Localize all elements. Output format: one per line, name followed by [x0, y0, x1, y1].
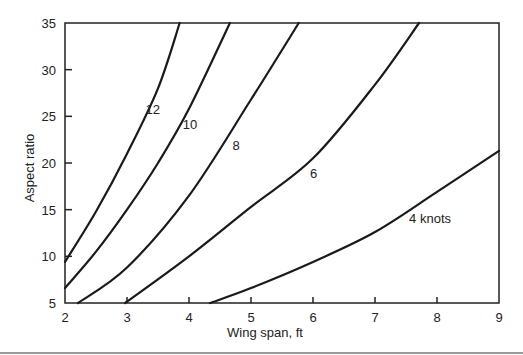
y-axis: 5101520253035	[42, 16, 72, 311]
x-tick-label: 8	[433, 310, 440, 325]
x-axis-title: Wing span, ft	[227, 325, 303, 340]
y-tick-label: 20	[42, 156, 56, 171]
x-tick-label: 2	[61, 310, 68, 325]
x-tick-label: 4	[185, 310, 192, 325]
curve-label: 4 knots	[409, 211, 451, 226]
x-tick-label: 5	[247, 310, 254, 325]
x-tick-label: 3	[123, 310, 130, 325]
y-tick-label: 25	[42, 109, 56, 124]
curve-12	[65, 23, 180, 262]
curve-10	[65, 23, 230, 288]
x-tick-label: 6	[309, 310, 316, 325]
curve-label: 8	[232, 138, 239, 153]
y-tick-label: 30	[42, 63, 56, 78]
curve-8	[78, 23, 299, 303]
chart: 23456789 5101520253035 1210864 knots Win…	[0, 0, 523, 355]
y-tick-label: 35	[42, 16, 56, 31]
y-tick-label: 5	[49, 296, 56, 311]
y-axis-title: Aspect ratio	[22, 134, 37, 203]
x-tick-label: 7	[371, 310, 378, 325]
curve-4-knots	[210, 151, 499, 303]
curve-label: 12	[146, 102, 160, 117]
curve-label: 6	[310, 166, 317, 181]
curve-label: 10	[183, 117, 197, 132]
y-tick-label: 10	[42, 249, 56, 264]
plot-frame	[65, 23, 499, 303]
series-group: 1210864 knots	[65, 23, 499, 303]
x-tick-label: 9	[495, 310, 502, 325]
y-tick-label: 15	[42, 203, 56, 218]
